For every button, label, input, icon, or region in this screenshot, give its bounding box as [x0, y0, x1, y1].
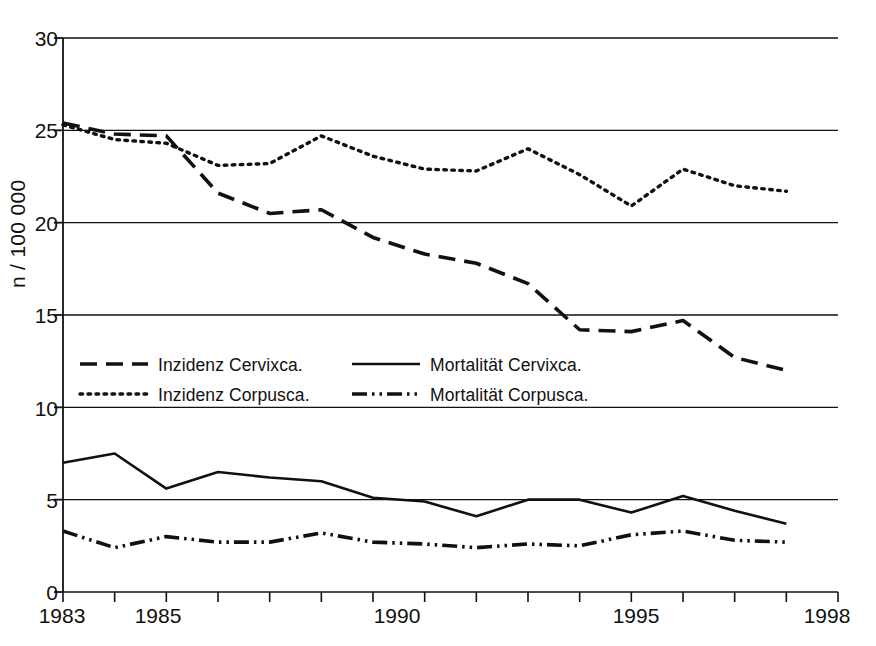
y-axis-title: n / 100 000 [6, 128, 30, 288]
x-tick-1998: 1998 [782, 604, 872, 628]
data-series-layer [63, 123, 786, 548]
axis-ticks [54, 38, 838, 602]
y-tick-10: 10 [14, 397, 58, 421]
series-line-3 [63, 531, 786, 548]
legend-label-mortalitaet-cervixca: Mortalität Cervixca. [430, 355, 582, 376]
series-line-2 [63, 454, 786, 524]
y-tick-5: 5 [14, 489, 58, 513]
x-tick-1990: 1990 [352, 604, 442, 628]
x-tick-1995: 1995 [591, 604, 681, 628]
x-tick-1983: 1983 [17, 604, 107, 628]
series-line-0 [63, 123, 786, 370]
plot-canvas [0, 0, 876, 646]
chart-figure: n / 100 000 30 25 20 15 10 5 0 1983 1985… [0, 0, 876, 646]
legend-label-mortalitaet-corpusca: Mortalität Corpusca. [430, 385, 589, 406]
y-tick-15: 15 [14, 304, 58, 328]
series-line-1 [63, 125, 786, 206]
y-tick-30: 30 [14, 27, 58, 51]
legend-label-inzidenz-cervixca: Inzidenz Cervixca. [158, 355, 303, 376]
legend-label-inzidenz-corpusca: Inzidenz Corpusca. [158, 385, 310, 406]
x-tick-1985: 1985 [113, 604, 203, 628]
y-tick-0: 0 [14, 581, 58, 605]
y-tick-20: 20 [14, 212, 58, 236]
y-tick-25: 25 [14, 119, 58, 143]
